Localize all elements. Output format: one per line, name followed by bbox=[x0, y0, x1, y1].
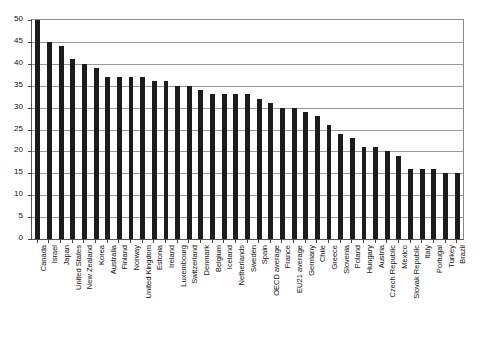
bar bbox=[129, 77, 134, 239]
x-axis-category-label: Iceland bbox=[223, 245, 231, 269]
x-axis-tick bbox=[95, 239, 96, 243]
x-axis-category-label-text: Greece bbox=[331, 245, 339, 270]
y-axis-tick-label: 50 bbox=[14, 15, 23, 23]
x-axis-category-label-text: Mexico bbox=[401, 245, 409, 269]
y-axis-tick-label: 40 bbox=[14, 59, 23, 67]
x-axis-category-label: Austria bbox=[375, 245, 383, 268]
bar bbox=[338, 134, 343, 239]
x-axis-tick bbox=[72, 239, 73, 243]
y-axis-tick-label: 25 bbox=[14, 125, 23, 133]
x-axis-category-label: Sweden bbox=[247, 245, 255, 272]
bar bbox=[59, 46, 64, 239]
x-axis-tick bbox=[48, 239, 49, 243]
x-axis-category-label-text: New Zealand bbox=[86, 245, 94, 289]
x-axis-category-label: Luxembourg bbox=[177, 245, 185, 287]
x-axis-category-label-text: Canada bbox=[40, 245, 48, 271]
bar bbox=[245, 94, 250, 239]
x-axis-category-label: United Kingdom bbox=[142, 245, 150, 298]
x-axis-tick bbox=[410, 239, 411, 243]
bar bbox=[198, 90, 203, 239]
x-axis-category-label-text: Australia bbox=[110, 245, 118, 274]
x-axis-category-label: OECD average bbox=[270, 245, 278, 296]
bar bbox=[350, 138, 355, 239]
bar bbox=[222, 94, 227, 239]
bar bbox=[280, 108, 285, 239]
x-axis-category-label: Australia bbox=[107, 245, 115, 274]
x-axis-category-label-text: Poland bbox=[354, 245, 362, 268]
bar bbox=[431, 169, 436, 239]
x-axis-ticks bbox=[31, 239, 462, 244]
x-axis-tick bbox=[258, 239, 259, 243]
y-axis-tick-label: 30 bbox=[14, 103, 23, 111]
x-axis-tick bbox=[270, 239, 271, 243]
x-axis-tick bbox=[445, 239, 446, 243]
x-axis-tick bbox=[316, 239, 317, 243]
x-axis-category-label-text: Norway bbox=[133, 245, 141, 270]
x-axis-category-label: Japan bbox=[60, 245, 68, 265]
x-axis-category-label-text: Estonia bbox=[156, 245, 164, 270]
bar bbox=[140, 77, 145, 239]
bar bbox=[152, 81, 157, 239]
x-axis-category-label: Chile bbox=[316, 245, 324, 262]
x-axis-tick bbox=[212, 239, 213, 243]
bar bbox=[187, 86, 192, 239]
bar bbox=[268, 103, 273, 239]
x-axis-tick bbox=[130, 239, 131, 243]
x-axis-category-label-text: Denmark bbox=[203, 245, 211, 275]
x-axis-tick bbox=[223, 239, 224, 243]
bar bbox=[373, 147, 378, 239]
x-axis-category-label: Estonia bbox=[153, 245, 161, 270]
x-axis-tick bbox=[328, 239, 329, 243]
x-axis-category-label: Israel bbox=[48, 245, 56, 263]
y-axis-tick-label: 10 bbox=[14, 190, 23, 198]
x-axis-category-label-text: Switzerland bbox=[191, 245, 199, 284]
x-axis-category-label-text: Luxembourg bbox=[180, 245, 188, 287]
x-axis-tick bbox=[118, 239, 119, 243]
bar bbox=[94, 68, 99, 239]
x-axis-category-label-text: Japan bbox=[63, 245, 71, 265]
bar bbox=[164, 81, 169, 239]
x-axis-category-label: Netherlands bbox=[235, 245, 243, 285]
bar bbox=[292, 108, 297, 239]
bar bbox=[327, 125, 332, 239]
x-axis-tick bbox=[235, 239, 236, 243]
x-axis-category-label-text: Korea bbox=[98, 245, 106, 265]
x-axis-category-label: Norway bbox=[130, 245, 138, 270]
y-axis-tick-label: 35 bbox=[14, 81, 23, 89]
x-axis-tick bbox=[293, 239, 294, 243]
x-axis-category-label-text: Italy bbox=[424, 245, 432, 259]
bar bbox=[82, 64, 87, 239]
x-axis-category-label-text: United Kingdom bbox=[145, 245, 153, 298]
x-axis-tick bbox=[142, 239, 143, 243]
x-axis-tick bbox=[200, 239, 201, 243]
bar bbox=[35, 20, 40, 239]
x-axis-category-label-text: United States bbox=[75, 245, 83, 290]
bar bbox=[420, 169, 425, 239]
bar-series bbox=[32, 20, 463, 239]
x-axis-category-label: Spain bbox=[258, 245, 266, 264]
x-axis-category-label: Greece bbox=[328, 245, 336, 270]
x-axis-category-label-text: Portugal bbox=[436, 245, 444, 273]
x-axis-category-label: Poland bbox=[351, 245, 359, 268]
x-axis-tick bbox=[433, 239, 434, 243]
y-axis-tick-label: 5 bbox=[19, 212, 23, 220]
x-axis-category-label-text: Netherlands bbox=[238, 245, 246, 285]
x-axis-category-label: Belgium bbox=[212, 245, 220, 272]
x-axis-tick bbox=[375, 239, 376, 243]
x-axis-tick bbox=[83, 239, 84, 243]
x-axis-tick bbox=[363, 239, 364, 243]
x-axis-category-label: Mexico bbox=[398, 245, 406, 269]
x-axis-category-label: Switzerland bbox=[188, 245, 196, 284]
x-axis-category-labels: CanadaIsraelJapanUnited StatesNew Zealan… bbox=[31, 245, 462, 340]
x-axis-category-label-text: Turkey bbox=[448, 245, 456, 268]
x-axis-category-label: France bbox=[281, 245, 289, 268]
x-axis-category-label: Korea bbox=[95, 245, 103, 265]
bar bbox=[70, 59, 75, 239]
x-axis-category-label: Portugal bbox=[433, 245, 441, 273]
bar bbox=[105, 77, 110, 239]
x-axis-tick bbox=[188, 239, 189, 243]
x-axis-category-label-text: Germany bbox=[308, 245, 316, 276]
y-axis-tick-label: 45 bbox=[14, 37, 23, 45]
x-axis-category-label-text: France bbox=[284, 245, 292, 268]
x-axis-category-label-text: Ireland bbox=[168, 245, 176, 268]
